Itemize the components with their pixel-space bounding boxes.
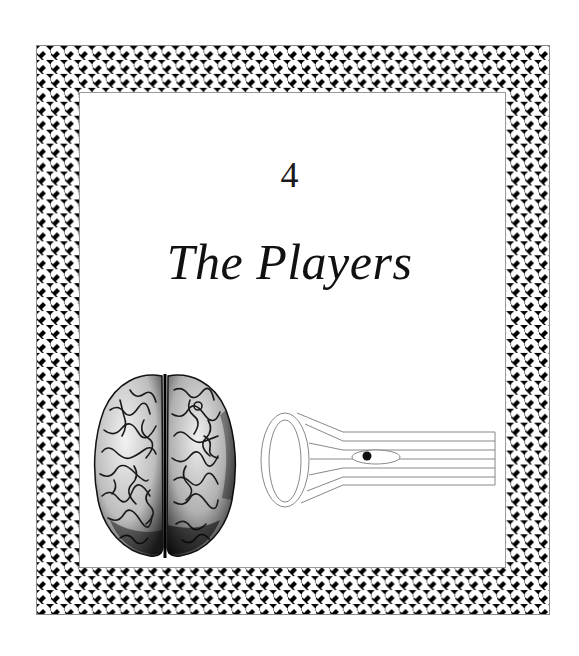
chapter-number: 4 bbox=[0, 160, 579, 190]
fiber-inner-ring bbox=[269, 420, 301, 502]
chapter-title: The Players bbox=[0, 232, 579, 292]
nucleus-dot bbox=[363, 452, 372, 461]
fiber-nucleus bbox=[352, 450, 400, 464]
fiber-outer-ring bbox=[261, 413, 309, 507]
brain-icon bbox=[90, 370, 240, 560]
fiber-cell-icon bbox=[255, 405, 505, 515]
